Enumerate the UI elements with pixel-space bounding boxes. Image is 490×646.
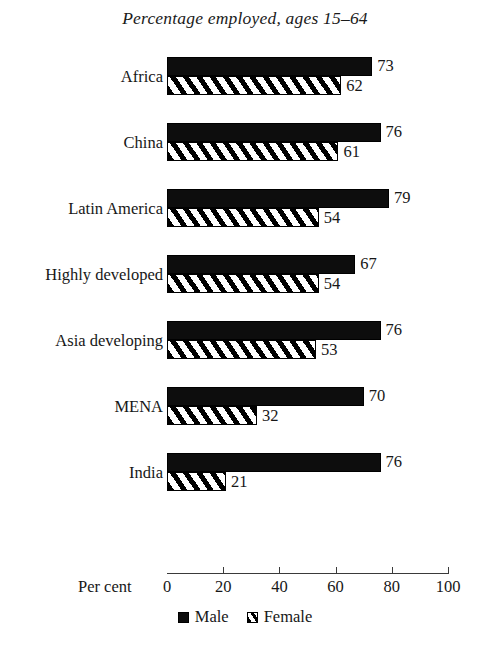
bar-group: Highly developed6754 (0, 254, 490, 296)
bar-female[interactable] (167, 274, 319, 293)
bar-value-male: 67 (360, 254, 377, 273)
bar-value-male: 76 (386, 452, 403, 471)
plot-area: Africa7362China7661Latin America7954High… (0, 50, 490, 560)
bar-value-male: 70 (369, 386, 386, 405)
x-axis-tick-label: 40 (271, 577, 288, 597)
bar-male[interactable] (167, 387, 364, 406)
bar-male[interactable] (167, 453, 381, 472)
x-axis-tick-label: 80 (384, 577, 401, 597)
bar-group: Asia developing7653 (0, 320, 490, 362)
bar-group: India7621 (0, 452, 490, 494)
category-label: Latin America (68, 197, 163, 221)
x-axis-tick-label: 20 (215, 577, 232, 597)
legend-label: Female (264, 607, 313, 626)
x-axis: Per cent 020406080100 (0, 563, 490, 603)
category-label: Highly developed (45, 263, 163, 287)
bar-value-female: 21 (231, 472, 248, 491)
bar-group: Africa7362 (0, 56, 490, 98)
x-axis-tick (392, 567, 393, 574)
bar-male[interactable] (167, 321, 381, 340)
bar-value-female: 54 (324, 208, 341, 227)
bar-female[interactable] (167, 340, 316, 359)
x-axis-tick-label: 60 (327, 577, 344, 597)
bar-group: MENA7032 (0, 386, 490, 428)
bar-group: Latin America7954 (0, 188, 490, 230)
x-axis-title: Per cent (78, 577, 132, 597)
bar-male[interactable] (167, 189, 389, 208)
bar-value-female: 62 (346, 76, 363, 95)
bar-value-male: 79 (394, 188, 411, 207)
bar-female[interactable] (167, 142, 338, 161)
x-axis-tick (336, 567, 337, 574)
hatched-square-icon (247, 612, 258, 623)
bar-male[interactable] (167, 255, 355, 274)
bar-value-male: 73 (377, 56, 394, 75)
bar-male[interactable] (167, 57, 372, 76)
bar-female[interactable] (167, 472, 226, 491)
employment-bar-chart: Percentage employed, ages 15–64 Africa73… (0, 0, 490, 646)
x-axis-tick-label: 0 (163, 577, 171, 597)
filled-square-icon (178, 612, 189, 623)
bar-value-female: 54 (324, 274, 341, 293)
bar-male[interactable] (167, 123, 381, 142)
bar-female[interactable] (167, 208, 319, 227)
bar-value-male: 76 (386, 122, 403, 141)
category-label: MENA (114, 395, 163, 419)
legend-item-male[interactable]: Male (178, 607, 229, 627)
x-axis-tick (448, 567, 449, 574)
category-label: Asia developing (55, 329, 163, 353)
category-label: India (129, 461, 163, 485)
category-label: Africa (121, 65, 163, 89)
legend-label: Male (195, 607, 229, 626)
legend-item-female[interactable]: Female (247, 607, 313, 627)
x-axis-tick-label: 100 (436, 577, 461, 597)
bar-group: China7661 (0, 122, 490, 164)
chart-legend: MaleFemale (0, 606, 490, 627)
bar-female[interactable] (167, 406, 257, 425)
bar-value-female: 61 (343, 142, 360, 161)
x-axis-tick (223, 567, 224, 574)
category-label: China (124, 131, 163, 155)
x-axis-tick (279, 567, 280, 574)
bar-value-female: 53 (321, 340, 338, 359)
x-axis-line (167, 573, 448, 574)
bar-value-male: 76 (386, 320, 403, 339)
chart-title: Percentage employed, ages 15–64 (0, 8, 490, 29)
bar-value-female: 32 (262, 406, 279, 425)
bar-female[interactable] (167, 76, 341, 95)
